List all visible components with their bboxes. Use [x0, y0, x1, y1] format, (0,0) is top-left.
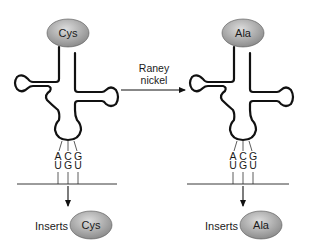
right-amino-acid-label: Ala — [235, 27, 252, 39]
right-trna-backbone — [190, 47, 293, 140]
left-codon-ticks — [58, 172, 78, 184]
left-trna-backbone — [15, 47, 118, 140]
left-inserted-amino-acid-label: Cys — [82, 219, 101, 231]
right-codon-ticks — [233, 172, 253, 184]
left-trna-group: Cys A C G U G U Inserts Cys — [15, 19, 118, 239]
left-codon-1: U — [54, 159, 62, 171]
reagent-label-line1: Raney — [139, 62, 170, 74]
left-codon-3: U — [74, 159, 82, 171]
diagram-canvas: Cys A C G U G U Inserts Cys Raney nickel… — [0, 0, 311, 252]
reagent-label-line2: nickel — [141, 74, 168, 86]
right-trna-group: Ala A C G U G U Inserts Ala — [187, 19, 293, 239]
left-codon-2: G — [64, 159, 72, 171]
right-inserted-amino-acid-label: Ala — [253, 219, 270, 231]
right-codon-2: G — [239, 159, 247, 171]
reaction-arrow-group: Raney nickel — [121, 62, 185, 90]
right-codon-3: U — [249, 159, 257, 171]
left-amino-acid-label: Cys — [59, 27, 78, 39]
right-codon-1: U — [229, 159, 237, 171]
left-inserts-label: Inserts — [35, 220, 69, 232]
right-inserts-label: Inserts — [205, 220, 239, 232]
